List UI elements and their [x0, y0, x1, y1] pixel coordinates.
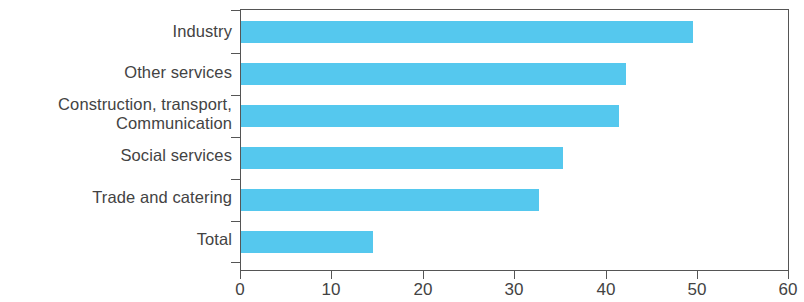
x-axis-label-10: 10	[322, 280, 341, 300]
bar-chart: Industry Other services Construction, tr…	[0, 0, 804, 302]
bars-layer	[241, 10, 789, 270]
bar-other-services	[241, 63, 626, 85]
category-label-social-services: Social services	[0, 146, 232, 165]
x-axis-tick-30	[514, 271, 515, 279]
category-axis-labels: Industry Other services Construction, tr…	[0, 0, 232, 302]
x-axis-tick-50	[697, 271, 698, 279]
x-axis-tick-60	[788, 271, 789, 279]
bar-construction-transport-communication	[241, 105, 619, 127]
category-label-other-services: Other services	[0, 63, 232, 82]
bar-social-services	[241, 147, 563, 169]
x-axis-label-20: 20	[414, 280, 433, 300]
category-label-construction-transport-communication: Construction, transport, Communication	[0, 95, 232, 133]
category-label-total: Total	[0, 230, 232, 249]
x-axis-label-50: 50	[688, 280, 707, 300]
x-axis-tick-0	[240, 271, 241, 279]
x-axis-label-40: 40	[597, 280, 616, 300]
x-axis-tick-40	[606, 271, 607, 279]
bar-industry	[241, 21, 693, 43]
x-axis-label-0: 0	[235, 280, 244, 300]
category-label-industry: Industry	[0, 22, 232, 41]
x-axis-label-30: 30	[505, 280, 524, 300]
category-label-trade-and-catering: Trade and catering	[0, 188, 232, 207]
x-axis-label-60: 60	[779, 280, 798, 300]
x-axis-tick-20	[423, 271, 424, 279]
bar-trade-and-catering	[241, 189, 539, 211]
bar-total	[241, 231, 373, 253]
x-axis-tick-10	[331, 271, 332, 279]
